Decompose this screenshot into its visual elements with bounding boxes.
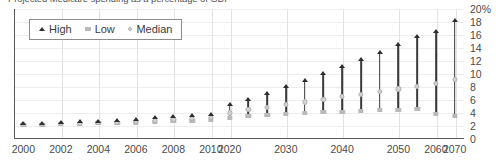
- marker-high: [302, 78, 308, 82]
- marker-low: [452, 114, 457, 118]
- marker-high: [95, 119, 101, 123]
- marker-low: [414, 107, 419, 111]
- marker-low: [302, 111, 307, 115]
- legend-item-label: Low: [95, 23, 115, 35]
- x-axis-tick-label: 2004: [87, 143, 110, 155]
- y-axis-tick-label: 20%: [470, 4, 491, 14]
- marker-high: [339, 64, 345, 68]
- y-axis-tick-label: 14: [470, 43, 482, 53]
- marker-low: [377, 108, 382, 112]
- marker-low: [246, 114, 251, 118]
- y-axis-tick-label: 0: [470, 134, 476, 144]
- range-stem: [360, 60, 362, 111]
- marker-low: [227, 116, 232, 120]
- range-stem: [416, 38, 418, 110]
- gridline-vertical: [287, 9, 288, 138]
- chart-container: Projected Medicare spending as a percent…: [0, 0, 496, 164]
- x-axis-tick-label: 2000: [12, 143, 35, 155]
- range-stem: [398, 45, 400, 109]
- x-axis-tick-label: 2040: [330, 143, 353, 155]
- marker-high: [152, 115, 158, 119]
- y-axis-tick-label: 12: [470, 56, 482, 66]
- marker-high: [58, 120, 64, 124]
- marker-high: [452, 18, 458, 22]
- y-axis-tick-label: 6: [470, 95, 476, 105]
- marker-high: [170, 114, 176, 118]
- x-axis-tick-label: 2070: [443, 143, 466, 155]
- y-axis-tick-label: 4: [470, 108, 476, 118]
- marker-high: [395, 42, 401, 46]
- circle-icon: [128, 27, 133, 32]
- gridline-horizontal: [15, 126, 464, 127]
- legend-item[interactable]: High: [39, 23, 72, 35]
- marker-high: [377, 50, 383, 54]
- marker-high: [20, 121, 26, 125]
- y-axis-tick-label: 16: [470, 30, 482, 40]
- gridline-vertical: [399, 9, 400, 138]
- gridline-vertical: [343, 9, 344, 138]
- gridline-vertical: [456, 9, 457, 138]
- range-stem: [323, 75, 325, 113]
- marker-high: [358, 57, 364, 61]
- marker-high: [39, 121, 45, 125]
- x-axis-tick-label: 2030: [274, 143, 297, 155]
- marker-high: [114, 118, 120, 122]
- range-stem: [454, 21, 456, 115]
- x-axis-tick-label: 2006: [124, 143, 147, 155]
- range-stem: [379, 53, 381, 110]
- marker-high: [133, 117, 139, 121]
- marker-high: [189, 113, 195, 117]
- x-axis-tick-label: 2050: [387, 143, 410, 155]
- marker-low: [433, 112, 438, 116]
- x-axis-tick-label: 2008: [162, 143, 185, 155]
- square-icon: [85, 27, 91, 30]
- range-stem: [304, 81, 306, 113]
- y-axis-tick-label: 18: [470, 17, 482, 27]
- marker-high: [433, 29, 439, 33]
- marker-low: [321, 110, 326, 114]
- x-axis-tick-label: 2020: [218, 143, 241, 155]
- triangle-up-icon: [39, 27, 45, 31]
- legend-item-label: Median: [136, 23, 172, 35]
- marker-high: [283, 84, 289, 88]
- marker-high: [77, 119, 83, 123]
- marker-low: [283, 112, 288, 116]
- gridline-horizontal: [15, 9, 464, 10]
- marker-low: [396, 108, 401, 112]
- marker-high: [414, 34, 420, 38]
- marker-high: [227, 102, 233, 106]
- range-stem: [285, 88, 287, 114]
- marker-high: [320, 71, 326, 75]
- y-axis-tick-label: 8: [470, 82, 476, 92]
- range-stem: [341, 68, 343, 112]
- range-stem: [435, 32, 437, 113]
- gridline-horizontal: [15, 113, 464, 114]
- y-axis-tick-label: 10: [470, 69, 482, 79]
- x-axis-tick-label: 2002: [49, 143, 72, 155]
- legend-item[interactable]: Low: [85, 23, 115, 35]
- marker-low: [264, 113, 269, 117]
- y-axis-tick-label: 2: [470, 121, 476, 131]
- legend-item[interactable]: Median: [128, 23, 173, 35]
- marker-high: [208, 112, 214, 116]
- chart-legend: HighLowMedian: [29, 19, 182, 40]
- legend-item-label: High: [49, 23, 72, 35]
- marker-high: [245, 97, 251, 101]
- chart-title: Projected Medicare spending as a percent…: [8, 0, 231, 4]
- marker-high: [264, 91, 270, 95]
- marker-low: [339, 110, 344, 114]
- marker-low: [358, 109, 363, 113]
